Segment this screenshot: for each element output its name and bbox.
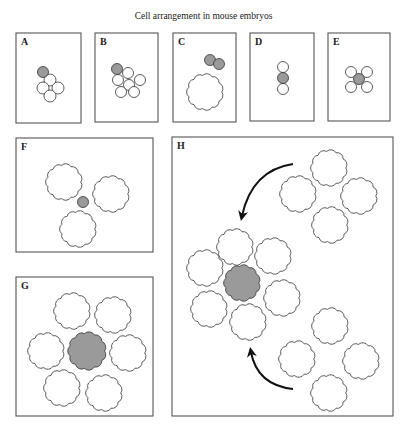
white-cell <box>113 75 124 86</box>
white-cell <box>278 62 289 73</box>
panel-e: E <box>328 33 390 121</box>
panel-label: D <box>255 36 262 47</box>
gray-cell <box>278 73 289 84</box>
white-cell <box>129 87 140 98</box>
panel-b: B <box>95 33 158 122</box>
white-cell <box>116 87 127 98</box>
panel-h: H <box>172 137 393 416</box>
panel-d: D <box>250 33 314 121</box>
panel-label: E <box>333 36 340 47</box>
gray-cell <box>78 197 89 208</box>
white-cell <box>135 75 146 86</box>
panel-label: G <box>21 280 29 291</box>
white-cell <box>123 68 134 79</box>
panel-label: B <box>100 36 107 47</box>
panel-label: H <box>177 140 185 151</box>
panel-label: F <box>21 141 27 152</box>
panel-a: A <box>16 33 81 123</box>
gray-cell <box>38 67 49 78</box>
figure-canvas: ABCDEFGH <box>0 0 407 428</box>
panel-c: C <box>173 33 236 122</box>
white-cell <box>278 84 289 95</box>
panel-label: C <box>178 36 185 47</box>
white-cell <box>44 90 56 102</box>
gray-cell <box>112 64 123 75</box>
panel-f: F <box>16 138 153 252</box>
panels-group: ABCDEFGH <box>16 33 393 416</box>
panel-label: A <box>21 36 29 47</box>
gray-cell <box>354 74 365 85</box>
gray-cell <box>214 59 225 70</box>
panel-g: G <box>16 277 153 416</box>
